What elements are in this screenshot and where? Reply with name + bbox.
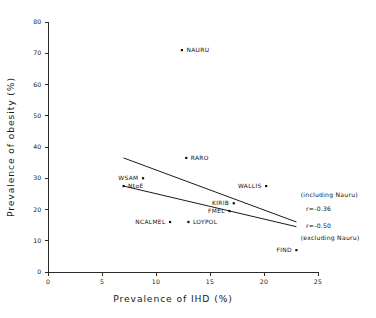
data-point-marker bbox=[142, 177, 144, 179]
annotation-text: (including Nauru) bbox=[301, 191, 358, 199]
data-point-marker bbox=[228, 210, 230, 212]
data-point-marker bbox=[265, 185, 267, 187]
x-axis-ticks: 0510152025 bbox=[46, 272, 322, 285]
data-point-marker bbox=[185, 157, 187, 159]
data-point-marker bbox=[169, 221, 171, 223]
data-point-marker bbox=[233, 202, 235, 204]
regression-lines bbox=[124, 158, 297, 227]
data-point-label: FIND bbox=[276, 247, 292, 253]
data-point-label: NAURU bbox=[186, 47, 209, 53]
x-tick-label: 25 bbox=[314, 278, 322, 285]
annotation-text: (excluding Nauru) bbox=[301, 234, 360, 242]
data-point-label: NCALMEL bbox=[135, 219, 166, 225]
data-point-label: NtoE bbox=[128, 183, 143, 189]
chart-annotations: (including Nauru)r=-0.36r=-0.50(excludin… bbox=[301, 191, 360, 242]
plot-canvas: 01020304050607080 0510152025 NAURURAROWS… bbox=[0, 0, 376, 318]
x-tick-label: 15 bbox=[206, 278, 214, 285]
x-tick-label: 20 bbox=[260, 278, 268, 285]
data-points: NAURURAROWSAMNtoEWALLISKIRIBFMELLOYPOLNC… bbox=[118, 47, 297, 253]
y-tick-label: 10 bbox=[33, 237, 41, 244]
y-tick-label: 50 bbox=[33, 112, 41, 119]
annotation-text: r=-0.50 bbox=[306, 222, 331, 229]
y-tick-label: 40 bbox=[33, 143, 41, 150]
x-tick-label: 10 bbox=[152, 278, 160, 285]
data-point-label: WSAM bbox=[118, 175, 138, 181]
y-tick-label: 70 bbox=[33, 49, 41, 56]
x-tick-label: 0 bbox=[46, 278, 50, 285]
data-point-marker bbox=[123, 185, 125, 187]
data-point-label: LOYPOL bbox=[193, 219, 218, 225]
y-tick-label: 60 bbox=[33, 81, 41, 88]
data-point-label: KIRIB bbox=[212, 200, 229, 206]
y-tick-label: 0 bbox=[37, 268, 41, 275]
data-point-label: WALLIS bbox=[238, 183, 262, 189]
data-point-label: FMEL bbox=[208, 208, 225, 214]
x-axis-title: Prevalence of IHD (%) bbox=[113, 293, 233, 304]
y-tick-label: 30 bbox=[33, 174, 41, 181]
data-point-marker bbox=[181, 49, 183, 51]
y-tick-label: 80 bbox=[33, 18, 41, 25]
data-point-marker bbox=[187, 221, 189, 223]
y-axis-ticks: 01020304050607080 bbox=[33, 18, 48, 275]
scatter-chart: 01020304050607080 0510152025 NAURURAROWS… bbox=[0, 0, 376, 318]
annotation-text: r=-0.36 bbox=[306, 205, 331, 212]
x-tick-label: 5 bbox=[100, 278, 104, 285]
data-point-marker bbox=[295, 249, 297, 251]
y-axis-title: Prevalence of obesity (%) bbox=[5, 77, 16, 217]
y-tick-label: 20 bbox=[33, 206, 41, 213]
data-point-label: RARO bbox=[191, 155, 209, 161]
axes bbox=[48, 22, 318, 272]
